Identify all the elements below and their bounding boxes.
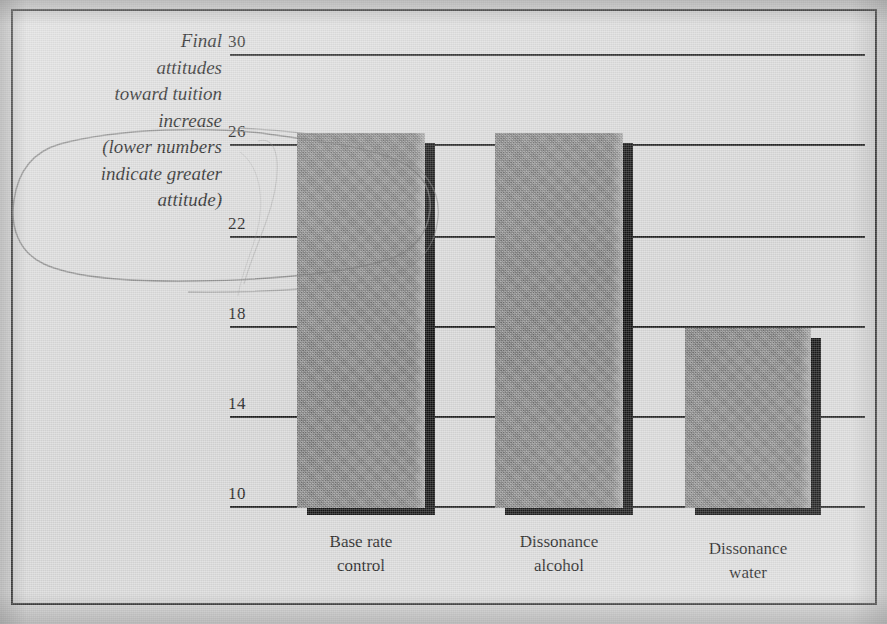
y-axis-title-line: Final [12, 28, 222, 55]
y-axis-title-line: indicate greater [12, 161, 222, 188]
category-label-line: alcohol [479, 554, 639, 578]
ytick-label-14: 14 [228, 394, 268, 414]
y-axis-title-line: attitudes [12, 55, 222, 82]
category-label-dissonance-alcohol: Dissonance alcohol [479, 530, 639, 578]
bar-highlight [612, 133, 623, 508]
category-label-line: Dissonance [668, 537, 828, 561]
gridline-30 [230, 54, 865, 56]
category-label-base-rate-control: Base rate control [281, 530, 441, 578]
ytick-label-26: 26 [228, 122, 268, 142]
bar-chart-plot-area: 30 26 22 18 14 10 Base rate control Diss… [0, 0, 887, 624]
category-label-line: Base rate [281, 530, 441, 554]
y-axis-title: Final attitudes toward tuition increase … [12, 28, 222, 214]
bar-highlight [414, 133, 425, 508]
ytick-label-18: 18 [228, 304, 268, 324]
ytick-label-30: 30 [228, 32, 268, 52]
y-axis-title-line: toward tuition [12, 81, 222, 108]
bar-base-rate-control [297, 133, 425, 508]
category-label-line: water [668, 561, 828, 585]
category-label-dissonance-water: Dissonance water [668, 537, 828, 585]
ytick-label-10: 10 [228, 484, 268, 504]
bar-dissonance-alcohol [495, 133, 623, 508]
bar-dissonance-water [685, 328, 811, 508]
category-label-line: control [281, 554, 441, 578]
category-label-line: Dissonance [479, 530, 639, 554]
scanned-figure-page: 30 26 22 18 14 10 Base rate control Diss… [0, 0, 887, 624]
y-axis-title-line: increase [12, 108, 222, 135]
y-axis-title-line: attitude) [12, 187, 222, 214]
y-axis-title-line: (lower numbers [12, 134, 222, 161]
bar-highlight [800, 328, 811, 508]
ytick-label-22: 22 [228, 214, 268, 234]
